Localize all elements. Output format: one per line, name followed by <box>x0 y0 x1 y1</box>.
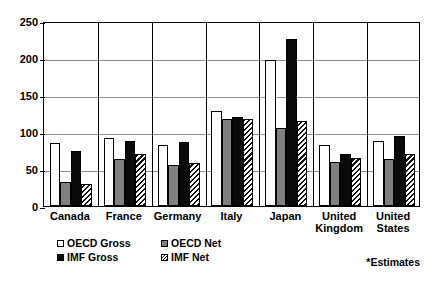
bar-imf-net <box>405 154 416 206</box>
legend-row: IMF Gross IMF Net <box>57 252 277 266</box>
legend-label: OECD Net <box>171 238 221 249</box>
bar-oecd-gross <box>50 143 61 206</box>
x-axis-label-line: Italy <box>205 210 259 222</box>
legend-item-imf-net: IMF Net <box>161 252 209 263</box>
bar-oecd-net <box>276 128 287 206</box>
y-axis: 050100150200250 <box>0 0 38 284</box>
bar-group <box>206 23 260 206</box>
y-axis-tick-label: 100 <box>4 128 38 139</box>
grouped-bar-chart: 050100150200250 CanadaFranceGermanyItaly… <box>0 0 437 284</box>
bar-oecd-net <box>114 159 125 206</box>
x-axis-label: Germany <box>151 210 205 222</box>
bar-imf-gross <box>125 141 136 206</box>
bar-imf-gross <box>179 142 190 206</box>
bar-imf-net <box>297 121 308 206</box>
x-axis-label-line: France <box>97 210 151 222</box>
y-axis-tick-label: 0 <box>4 202 38 213</box>
bar-group <box>259 23 313 206</box>
x-axis-category-labels: CanadaFranceGermanyItalyJapanUnitedKingd… <box>43 210 420 240</box>
footnote-estimates: *Estimates <box>366 256 420 268</box>
y-axis-tick-label: 250 <box>4 17 38 28</box>
x-axis-label-line: Canada <box>43 210 97 222</box>
legend-label: IMF Gross <box>67 252 118 263</box>
y-axis-tick-label: 50 <box>4 165 38 176</box>
bar-oecd-net <box>60 182 71 206</box>
y-axis-tick-label: 200 <box>4 54 38 65</box>
legend-label: IMF Net <box>171 252 209 263</box>
bar-group <box>152 23 206 206</box>
x-axis-label: UnitedKingdom <box>312 210 366 234</box>
bar-group <box>44 23 98 206</box>
bar-group <box>313 23 367 206</box>
bar-imf-net <box>243 119 254 206</box>
white-square-icon <box>57 240 64 247</box>
x-axis-label-line: Kingdom <box>312 222 366 234</box>
chart-legend: OECD Gross OECD Net IMF Gross IMF Net <box>57 238 277 266</box>
legend-item-oecd-gross: OECD Gross <box>57 238 161 249</box>
legend-item-imf-gross: IMF Gross <box>57 252 161 263</box>
bar-group <box>367 23 421 206</box>
x-axis-label-line: United <box>366 210 420 222</box>
bar-imf-gross <box>394 136 405 206</box>
y-axis-tickmark <box>40 208 45 209</box>
black-square-icon <box>57 254 64 261</box>
bar-oecd-net <box>384 159 395 206</box>
legend-label: OECD Gross <box>67 238 131 249</box>
plot-area <box>43 22 420 207</box>
bar-oecd-net <box>222 119 233 206</box>
bar-oecd-gross <box>158 145 169 206</box>
bar-oecd-gross <box>373 141 384 206</box>
y-axis-tick-label: 150 <box>4 91 38 102</box>
bar-group <box>98 23 152 206</box>
bar-imf-gross <box>340 154 351 206</box>
bar-oecd-net <box>330 162 341 206</box>
x-axis-label: France <box>97 210 151 222</box>
bar-imf-net <box>81 184 92 206</box>
legend-row: OECD Gross OECD Net <box>57 238 277 252</box>
gray-square-icon <box>161 240 168 247</box>
x-axis-label: Japan <box>258 210 312 222</box>
bar-oecd-gross <box>211 111 222 206</box>
bar-imf-net <box>135 154 146 206</box>
x-axis-label: Canada <box>43 210 97 222</box>
bar-imf-gross <box>71 151 82 207</box>
bar-imf-net <box>351 158 362 206</box>
x-axis-label: UnitedStates <box>366 210 420 234</box>
bar-oecd-gross <box>265 60 276 206</box>
legend-item-oecd-net: OECD Net <box>161 238 221 249</box>
bars-layer <box>44 23 419 206</box>
bar-oecd-gross <box>319 145 330 206</box>
x-axis-label-line: States <box>366 222 420 234</box>
x-axis-label-line: Germany <box>151 210 205 222</box>
bar-oecd-net <box>168 165 179 206</box>
x-axis-label-line: United <box>312 210 366 222</box>
bar-imf-gross <box>232 117 243 206</box>
x-axis-label: Italy <box>205 210 259 222</box>
bar-imf-gross <box>286 39 297 206</box>
bar-oecd-gross <box>104 138 115 206</box>
hatched-square-icon <box>161 254 168 261</box>
bar-imf-net <box>189 163 200 206</box>
x-axis-label-line: Japan <box>258 210 312 222</box>
